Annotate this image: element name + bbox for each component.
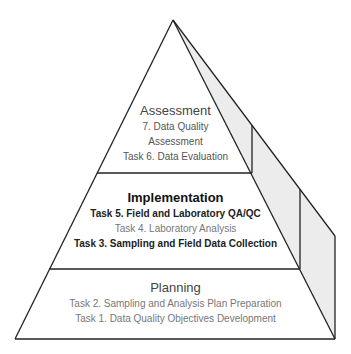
layer-implementation-item: Task 4. Laboratory Analysis [0, 224, 351, 234]
layer-assessment-item: Task 6. Data Evaluation [0, 152, 351, 162]
layer-planning-item: Task 2. Sampling and Analysis Plan Prepa… [0, 299, 351, 309]
layer-assessment-item: 7. Data Quality [0, 122, 351, 132]
layer-planning-title: Planning [0, 281, 351, 294]
layer-assessment-item: Assessment [0, 137, 351, 147]
layer-planning-item: Task 1. Data Quality Objectives Developm… [0, 314, 351, 324]
layer-assessment-title: Assessment [0, 104, 351, 117]
layer-implementation-item: Task 3. Sampling and Field Data Collecti… [0, 239, 351, 249]
layer-implementation-title: Implementation [0, 191, 351, 204]
layer-implementation-item: Task 5. Field and Laboratory QA/QC [0, 209, 351, 219]
